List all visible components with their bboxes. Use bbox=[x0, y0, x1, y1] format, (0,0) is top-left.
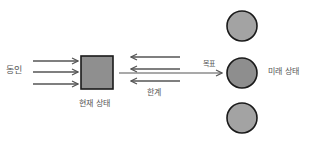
restraining-forces-label: 한계 bbox=[147, 89, 161, 97]
current-state-box bbox=[81, 56, 113, 89]
current-state-label: 현재 상태 bbox=[79, 100, 110, 108]
future-state-label: 미래 상태 bbox=[268, 68, 299, 76]
future-circle-middle bbox=[227, 58, 257, 88]
future-circle-bottom bbox=[227, 103, 257, 133]
driving-forces-label: 동인 bbox=[6, 66, 22, 75]
goal-label: 목표 bbox=[203, 61, 215, 68]
restraining-force-arrows bbox=[131, 57, 180, 81]
future-circle-top bbox=[227, 11, 257, 41]
future-state-circles bbox=[227, 11, 257, 133]
driving-force-arrows bbox=[33, 61, 78, 84]
